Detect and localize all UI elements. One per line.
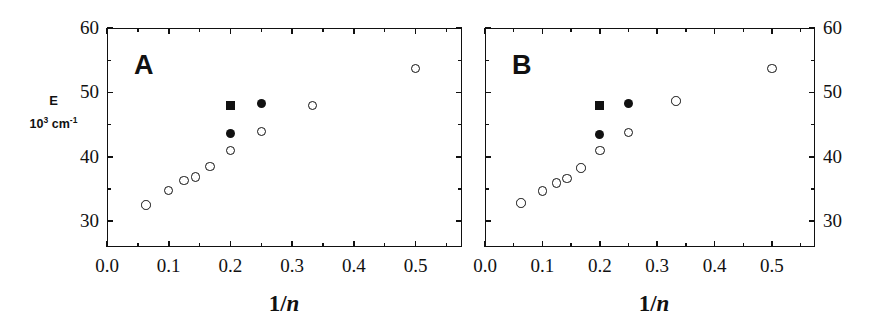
x-tick-bottom — [800, 243, 801, 247]
y-tick-right — [811, 60, 815, 61]
x-tick-label: 0.4 — [685, 256, 745, 275]
data-point-filled-circle — [595, 130, 604, 139]
x-tick-top — [415, 28, 417, 34]
x-axis-title-prefix: 1/ — [269, 291, 287, 316]
x-tick-top — [137, 28, 138, 32]
x-tick-label: 0.1 — [139, 256, 199, 275]
x-tick-bottom — [542, 241, 544, 247]
data-point-open-circle — [671, 96, 681, 106]
x-tick-bottom — [714, 241, 716, 247]
x-axis-title-prefix: 1/ — [639, 291, 657, 316]
y-tick-left — [107, 60, 111, 61]
x-tick-bottom — [570, 243, 571, 247]
y-tick-label: 40 — [823, 147, 867, 166]
data-point-open-circle — [205, 162, 215, 172]
y-axis-title-units: 103 cm-1 — [6, 117, 101, 132]
figure-container: E 103 cm-1 A 304050600.00.10.20.30.40.5 … — [0, 0, 879, 331]
y-tick-left — [485, 220, 491, 222]
plot-area-a — [107, 28, 462, 247]
x-tick-top — [353, 28, 355, 34]
units-unit-exponent: -1 — [70, 115, 78, 125]
x-tick-bottom — [106, 241, 108, 247]
x-tick-label: 0.2 — [570, 256, 630, 275]
y-tick-right — [458, 188, 462, 189]
x-tick-bottom — [261, 243, 262, 247]
x-tick-top — [599, 28, 601, 34]
x-tick-label: 0.0 — [455, 256, 515, 275]
x-tick-top — [542, 28, 544, 34]
x-tick-top — [230, 28, 232, 34]
units-base: 10 — [30, 117, 44, 131]
x-tick-bottom — [137, 243, 138, 247]
y-tick-right — [809, 27, 815, 29]
y-tick-right — [458, 60, 462, 61]
y-tick-left — [485, 156, 491, 158]
x-tick-label: 0.5 — [742, 256, 802, 275]
y-tick-left — [485, 92, 491, 94]
y-tick-label: 30 — [55, 211, 99, 230]
y-tick-right — [809, 156, 815, 158]
y-tick-label: 50 — [55, 82, 99, 101]
x-tick-bottom — [322, 243, 323, 247]
x-tick-top — [168, 28, 170, 34]
data-point-open-circle — [576, 163, 586, 173]
x-tick-label: 0.1 — [512, 256, 572, 275]
x-tick-top — [384, 28, 385, 32]
y-tick-right — [809, 220, 815, 222]
data-point-open-circle — [141, 200, 151, 210]
y-tick-label: 40 — [55, 147, 99, 166]
y-tick-left — [107, 188, 111, 189]
x-tick-top — [570, 28, 571, 32]
y-tick-right — [458, 124, 462, 125]
x-tick-top — [199, 28, 200, 32]
y-tick-left — [485, 60, 489, 61]
x-tick-top — [714, 28, 716, 34]
x-tick-top — [771, 28, 773, 34]
x-tick-bottom — [628, 243, 629, 247]
data-point-filled-square — [595, 101, 604, 110]
panel-b: B 304050600.00.10.20.30.40.5 1/n — [470, 0, 879, 331]
x-tick-bottom — [415, 241, 417, 247]
data-point-filled-square — [226, 101, 235, 110]
y-tick-left — [107, 156, 113, 158]
y-tick-label: 60 — [823, 18, 867, 37]
x-tick-bottom — [599, 241, 601, 247]
x-tick-bottom — [446, 243, 447, 247]
x-tick-bottom — [656, 241, 658, 247]
x-tick-bottom — [230, 241, 232, 247]
x-tick-top — [800, 28, 801, 32]
x-axis-title-b: 1/n — [554, 292, 754, 315]
data-point-open-circle — [595, 146, 605, 156]
y-tick-right — [456, 27, 462, 29]
y-tick-right — [456, 156, 462, 158]
x-tick-bottom — [168, 241, 170, 247]
x-tick-top — [291, 28, 293, 34]
x-tick-bottom — [199, 243, 200, 247]
x-tick-label: 0.0 — [77, 256, 137, 275]
x-axis-title-variable: n — [657, 291, 670, 316]
x-tick-top — [484, 28, 486, 34]
x-axis-title-variable: n — [287, 291, 300, 316]
x-tick-top — [743, 28, 744, 32]
x-tick-top — [628, 28, 629, 32]
y-tick-left — [107, 92, 113, 94]
x-tick-bottom — [771, 241, 773, 247]
y-tick-label: 50 — [823, 82, 867, 101]
x-tick-top — [106, 28, 108, 34]
y-tick-right — [811, 124, 815, 125]
x-tick-bottom — [743, 243, 744, 247]
units-unit: cm — [52, 117, 70, 131]
x-tick-top — [446, 28, 447, 32]
panel-a: E 103 cm-1 A 304050600.00.10.20.30.40.5 … — [0, 0, 470, 331]
panel-letter-a: A — [134, 52, 154, 79]
data-point-open-circle — [538, 186, 548, 196]
y-tick-left — [107, 220, 113, 222]
x-tick-top — [322, 28, 323, 32]
y-tick-label: 60 — [55, 18, 99, 37]
y-tick-left — [107, 124, 111, 125]
x-tick-label: 0.3 — [627, 256, 687, 275]
x-tick-bottom — [513, 243, 514, 247]
x-axis-title-a: 1/n — [184, 292, 384, 315]
x-tick-top — [685, 28, 686, 32]
y-tick-right — [456, 92, 462, 94]
